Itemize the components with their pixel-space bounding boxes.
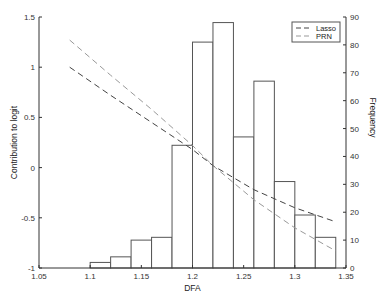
y-right-tick-label: 80 xyxy=(350,41,359,50)
y-right-tick-label: 0 xyxy=(350,264,355,273)
y-left-tick-label: 0 xyxy=(31,164,36,173)
y-right-tick-label: 40 xyxy=(350,152,359,161)
y-right-tick-label: 50 xyxy=(350,125,359,134)
y-right-tick-label: 90 xyxy=(350,13,359,22)
histogram-bar xyxy=(152,237,172,268)
legend: LassoPRN xyxy=(292,22,340,42)
histogram-bar xyxy=(315,237,335,268)
histogram-bar xyxy=(111,257,131,268)
y-left-tick-label: 1.5 xyxy=(24,13,36,22)
y-left-tick-label: 1 xyxy=(31,63,36,72)
histogram-bar xyxy=(274,182,294,268)
histogram-bar xyxy=(295,215,315,268)
x-tick-label: 1.35 xyxy=(338,272,354,281)
histogram-bar xyxy=(90,262,110,268)
histogram-bar xyxy=(172,145,192,268)
histogram-bar xyxy=(213,23,233,268)
y-right-tick-label: 60 xyxy=(350,97,359,106)
x-tick-label: 1.15 xyxy=(134,272,150,281)
y-left-tick-label: -1 xyxy=(28,264,36,273)
y-right-tick-label: 30 xyxy=(350,180,359,189)
x-tick-label: 1.2 xyxy=(187,272,199,281)
histogram-bar xyxy=(233,137,253,268)
histogram-bar xyxy=(254,81,274,268)
y-right-tick-label: 10 xyxy=(350,236,359,245)
y-left-axis-title: Contribution to logit xyxy=(9,105,19,179)
legend-label-prn: PRN xyxy=(316,32,332,41)
y-right-tick-label: 70 xyxy=(350,69,359,78)
x-tick-label: 1.25 xyxy=(236,272,252,281)
chart: 1.051.11.151.21.251.31.35-1-0.500.511.50… xyxy=(0,0,381,302)
histogram-bar xyxy=(131,240,151,268)
x-tick-label: 1.3 xyxy=(289,272,301,281)
histogram-bars xyxy=(90,23,336,268)
y-right-tick-label: 20 xyxy=(350,208,359,217)
x-tick-label: 1.1 xyxy=(85,272,97,281)
y-right-axis-title: Frequency xyxy=(368,97,378,138)
x-tick-label: 1.05 xyxy=(31,272,47,281)
y-left-tick-label: -0.5 xyxy=(21,214,35,223)
y-left-tick-label: 0.5 xyxy=(24,113,36,122)
x-axis-title: DFA xyxy=(184,283,201,293)
